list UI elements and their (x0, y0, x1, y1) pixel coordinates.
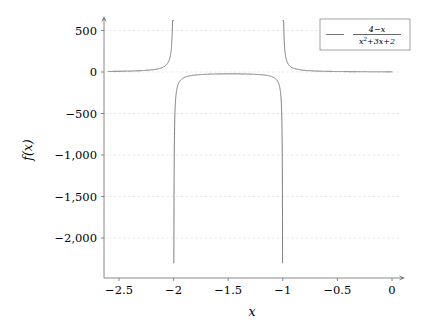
y-tick-label: 500 (75, 24, 97, 38)
tick-marks (101, 31, 392, 282)
data-curve (108, 21, 392, 263)
curve-branch (174, 74, 283, 263)
legend: 4−xx2+3x+2 (320, 19, 410, 50)
x-tick-label: −1 (274, 283, 291, 297)
y-tick-label: −500 (65, 107, 97, 121)
plot-canvas: 5000−500−1,000−1,500−2,000−2.5−2−1.5−1−0… (0, 0, 427, 328)
curve-branch (108, 21, 173, 72)
y-tick-label: −1,500 (54, 190, 97, 204)
x-tick-label: 0 (388, 283, 395, 297)
x-tick-label: −2.5 (105, 283, 133, 297)
y-tick-label: −2,000 (54, 231, 97, 245)
y-tick-label: −1,000 (54, 148, 97, 162)
y-axis-title: f(x) (20, 139, 35, 162)
chart-figure: 5000−500−1,000−1,500−2,000−2.5−2−1.5−1−0… (0, 0, 427, 328)
x-axis-title: x (248, 304, 255, 319)
x-tick-label: −2 (165, 283, 182, 297)
grid-lines (104, 31, 400, 239)
y-tick-label: 0 (90, 65, 97, 79)
legend-numerator: 4−x (368, 25, 386, 34)
x-tick-label: −1.5 (214, 283, 242, 297)
x-tick-label: −0.5 (323, 283, 351, 297)
tick-labels: 5000−500−1,000−1,500−2,000−2.5−2−1.5−1−0… (54, 24, 395, 298)
axes (101, 16, 405, 281)
